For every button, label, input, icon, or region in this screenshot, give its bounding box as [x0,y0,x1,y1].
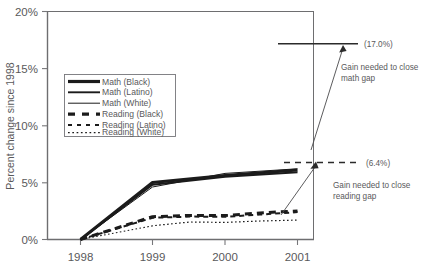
x-axis-ticks [81,240,298,246]
chart-container: 20% 15% 10% 5% 0% Percent change since 1… [0,0,423,272]
y-tick-label-10: 10% [15,120,38,132]
legend-label-reading-white: Reading (White) [102,127,164,137]
math-gap-leader-line [311,48,343,150]
math-gap-caption-line2: math gap [341,74,376,83]
series-line-math-latino [81,172,298,239]
series-line-math-black [81,170,298,240]
y-tick-label-20: 20% [15,6,38,18]
reading-gap-caption-line2: reading gap [333,192,377,201]
legend-label-math-black: Math (Black) [102,77,150,87]
chart-legend: Math (Black) Math (Latino) Math (White) … [65,75,176,138]
annotation-reading-gap: (6.4%) Gain needed to close reading gap [281,159,411,215]
reading-gap-value-label: (6.4%) [366,159,390,168]
x-tick-label-2001: 2001 [285,251,311,263]
y-axis-title: Percent change since 1998 [4,62,16,189]
x-tick-label-1999: 1999 [140,251,166,263]
legend-label-reading-black: Reading (Black) [102,109,163,119]
math-gap-value-label: (17.0%) [364,40,393,49]
legend-label-math-white: Math (White) [102,98,151,108]
reading-gap-leader-line [281,167,315,215]
reading-gap-caption-line1: Gain needed to close [333,181,411,190]
series-line-reading-white [81,220,298,239]
y-tick-label-5: 5% [21,177,38,189]
series-lines [81,169,298,240]
line-chart: 20% 15% 10% 5% 0% Percent change since 1… [0,0,423,272]
y-tick-label-0: 0% [21,234,38,246]
math-gap-caption-line1: Gain needed to close [341,63,419,72]
math-gap-arrowhead-icon [339,45,346,53]
y-axis-ticks [42,12,47,240]
x-tick-label-2000: 2000 [212,251,238,263]
x-tick-label-1998: 1998 [68,251,94,263]
annotation-math-gap: (17.0%) Gain needed to close math gap [278,40,419,150]
y-tick-label-15: 15% [15,63,38,75]
legend-label-math-latino: Math (Latino) [102,87,153,97]
